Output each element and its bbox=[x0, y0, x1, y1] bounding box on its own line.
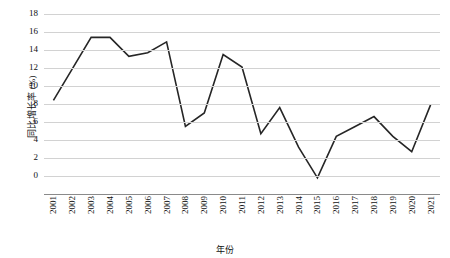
x-tick-label: 2021 bbox=[426, 196, 436, 214]
y-tick-label: 18 bbox=[4, 9, 38, 18]
gridline bbox=[44, 122, 440, 123]
y-tick-label: 12 bbox=[4, 63, 38, 72]
x-tick-label: 2002 bbox=[67, 196, 77, 214]
gridline bbox=[44, 68, 440, 69]
gridline bbox=[44, 104, 440, 105]
plot-area bbox=[44, 14, 440, 194]
x-tick-label: 2005 bbox=[124, 196, 134, 214]
y-tick-label: 10 bbox=[4, 81, 38, 90]
x-tick-label: 2007 bbox=[162, 196, 172, 214]
y-tick-label: 2 bbox=[4, 153, 38, 162]
x-tick-label: 2017 bbox=[350, 196, 360, 214]
y-tick-label: 8 bbox=[4, 99, 38, 108]
y-tick-label: 0 bbox=[4, 171, 38, 180]
y-tick-label: 14 bbox=[4, 45, 38, 54]
gridline bbox=[44, 14, 440, 15]
gridline bbox=[44, 32, 440, 33]
x-tick-label: 2020 bbox=[407, 196, 417, 214]
y-tick-label: 4 bbox=[4, 135, 38, 144]
y-tick-label: 6 bbox=[4, 117, 38, 126]
x-axis-title: 年份 bbox=[0, 243, 450, 256]
gridline bbox=[44, 176, 440, 177]
x-tick-label: 2011 bbox=[237, 196, 247, 214]
x-tick-label: 2003 bbox=[86, 196, 96, 214]
x-tick-label: 2001 bbox=[48, 196, 58, 214]
x-tick-label: 2009 bbox=[199, 196, 209, 214]
x-tick-label: 2010 bbox=[218, 196, 228, 214]
x-tick-label: 2012 bbox=[256, 196, 266, 214]
x-tick-label: 2015 bbox=[312, 196, 322, 214]
x-tick-label: 2016 bbox=[331, 196, 341, 214]
x-tick-label: 2006 bbox=[143, 196, 153, 214]
x-tick-label: 2013 bbox=[275, 196, 285, 214]
x-tick-label: 2014 bbox=[294, 196, 304, 214]
gridline bbox=[44, 158, 440, 159]
y-tick-label: 16 bbox=[4, 27, 38, 36]
gridline bbox=[44, 50, 440, 51]
x-tick-label: 2019 bbox=[388, 196, 398, 214]
line-chart: 同比增长率 (%) 024681012141618 20012002200320… bbox=[0, 0, 450, 258]
x-tick-label: 2018 bbox=[369, 196, 379, 214]
gridline bbox=[44, 86, 440, 87]
x-tick-label: 2004 bbox=[105, 196, 115, 214]
x-tick-label: 2008 bbox=[180, 196, 190, 214]
x-axis-line bbox=[44, 194, 440, 195]
x-axis-tick-labels: 2001200220032004200520062007200820092010… bbox=[44, 196, 440, 242]
gridline bbox=[44, 140, 440, 141]
